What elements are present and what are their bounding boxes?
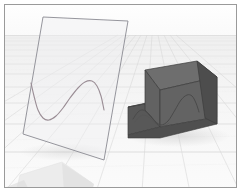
scene-canvas[interactable] [0, 0, 241, 192]
3d-modeling-viewport[interactable] [0, 0, 241, 192]
